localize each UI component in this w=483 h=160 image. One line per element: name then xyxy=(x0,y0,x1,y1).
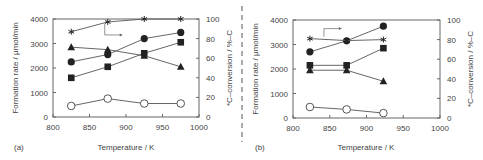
marker-circle-filled-icon xyxy=(380,23,387,30)
series-line-filled-triangle xyxy=(71,47,181,67)
y-tick-label: 2000 xyxy=(270,65,288,74)
marker-circle-filled-icon xyxy=(141,35,148,42)
series-line-star-conversion xyxy=(71,19,181,32)
y2-axis-label: *C–conversion / %–C xyxy=(225,30,234,106)
x-tick-label: 1000 xyxy=(431,124,449,133)
y2-tick-label: 20 xyxy=(206,93,215,102)
y2-tick-label: 100 xyxy=(447,16,461,25)
y2-tick-label: 0 xyxy=(206,113,211,122)
marker-square-filled-icon xyxy=(68,75,75,82)
series-line-open-circle xyxy=(71,99,181,106)
marker-circle-open-icon xyxy=(343,106,351,114)
series-line-filled-square xyxy=(71,42,181,78)
marker-circle-open-icon xyxy=(380,109,388,117)
y-tick-label: 1000 xyxy=(270,90,288,99)
y2-tick-label: 80 xyxy=(206,35,215,44)
chart-panel-a: 8008509009501000010002000300040000204060… xyxy=(11,15,234,152)
y-tick-label: 1000 xyxy=(30,89,48,98)
arrow-head-icon xyxy=(339,27,342,30)
annotation-arrow-icon xyxy=(105,24,123,36)
marker-square-filled-icon xyxy=(343,62,350,69)
marker-circle-open-icon xyxy=(306,103,314,111)
x-tick-label: 900 xyxy=(360,124,374,133)
x-axis-label: Temperature / K xyxy=(338,143,396,152)
plot-frame xyxy=(293,20,440,118)
marker-square-filled-icon xyxy=(307,62,314,69)
y-axis-label: Formation rate / μmol/min xyxy=(11,22,20,113)
x-tick-label: 850 xyxy=(323,124,337,133)
marker-star-icon xyxy=(68,29,74,35)
y2-tick-label: 60 xyxy=(447,55,456,64)
x-tick-label: 900 xyxy=(119,123,133,132)
marker-circle-filled-icon xyxy=(177,29,184,36)
x-tick-label: 950 xyxy=(397,124,411,133)
y-tick-label: 0 xyxy=(44,113,49,122)
y2-tick-label: 20 xyxy=(447,94,456,103)
panel-label: (b) xyxy=(255,143,265,152)
y-tick-label: 3000 xyxy=(270,41,288,50)
marker-square-filled-icon xyxy=(177,39,184,46)
marker-triangle-filled-icon xyxy=(67,43,75,50)
y2-tick-label: 40 xyxy=(447,75,456,84)
y2-tick-label: 40 xyxy=(206,74,215,83)
y-tick-label: 2000 xyxy=(30,64,48,73)
annotation-bracket xyxy=(324,29,340,37)
marker-square-filled-icon xyxy=(380,45,387,52)
y-tick-label: 0 xyxy=(284,114,289,123)
x-tick-label: 800 xyxy=(286,124,300,133)
marker-circle-open-icon xyxy=(67,102,75,110)
panel-label: (a) xyxy=(14,143,24,152)
marker-circle-open-icon xyxy=(140,100,148,108)
y-tick-label: 3000 xyxy=(30,40,48,49)
x-axis-label: Temperature / K xyxy=(98,143,156,152)
x-tick-label: 800 xyxy=(46,123,60,132)
marker-circle-filled-icon xyxy=(68,58,75,65)
y2-tick-label: 80 xyxy=(447,36,456,45)
annotation-arrow-icon xyxy=(324,27,342,36)
marker-circle-open-icon xyxy=(177,100,185,108)
y2-tick-label: 100 xyxy=(206,15,220,24)
y2-tick-label: 0 xyxy=(447,114,452,123)
y-tick-label: 4000 xyxy=(270,16,288,25)
chart-panel-b: 8008509009501000010002000300040000204060… xyxy=(251,16,475,152)
y2-axis-label: *C–conversion / %–C xyxy=(466,31,475,107)
figure: 8008509009501000010002000300040000204060… xyxy=(0,0,483,160)
x-tick-label: 1000 xyxy=(190,123,208,132)
marker-square-filled-icon xyxy=(104,63,111,70)
x-tick-label: 850 xyxy=(83,123,97,132)
y-tick-label: 4000 xyxy=(30,15,48,24)
x-tick-label: 950 xyxy=(156,123,170,132)
y2-tick-label: 60 xyxy=(206,54,215,63)
arrow-head-icon xyxy=(120,33,123,36)
annotation-bracket xyxy=(105,24,121,35)
marker-square-filled-icon xyxy=(141,50,148,57)
y-axis-label: Formation rate / μmol/min xyxy=(251,23,260,114)
marker-circle-open-icon xyxy=(104,95,112,103)
marker-circle-filled-icon xyxy=(306,48,313,55)
